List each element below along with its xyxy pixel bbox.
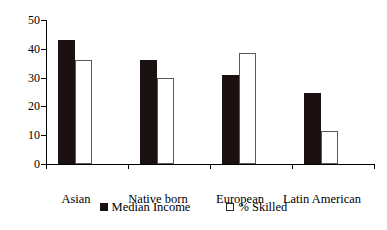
legend-entry-median-income: Median Income <box>100 200 191 214</box>
bar-percent-skilled-asian <box>75 60 92 164</box>
x-axis-tick-0 <box>46 164 47 169</box>
bar-group-latin-american <box>292 20 374 164</box>
y-axis-tick-label-40: 40 <box>2 43 40 55</box>
x-axis-tick-2 <box>210 164 211 169</box>
bar-percent-skilled-latin-american <box>321 131 338 164</box>
bar-chart-figure: 50 40 30 20 10 0 <box>0 0 387 230</box>
y-axis-tick-label-20: 20 <box>2 100 40 112</box>
y-axis-tick-label-50: 50 <box>2 14 40 26</box>
y-axis-tick-label-10: 10 <box>2 129 40 141</box>
bar-median-income-latin-american <box>304 93 321 164</box>
x-axis-tick-4 <box>374 164 375 169</box>
y-axis-tick-label-0: 0 <box>2 158 40 170</box>
bar-group-european <box>210 20 292 164</box>
bar-median-income-native-born <box>140 60 157 164</box>
open-square-icon <box>226 203 234 211</box>
legend-entry-percent-skilled: % Skilled <box>226 200 287 214</box>
filled-square-icon <box>100 203 108 211</box>
plot-area: 50 40 30 20 10 0 <box>46 20 375 164</box>
bar-group-asian <box>46 20 128 164</box>
bar-percent-skilled-native-born <box>157 78 174 164</box>
bar-percent-skilled-european <box>239 53 256 164</box>
bar-median-income-asian <box>58 40 75 164</box>
chart-legend: Median Income % Skilled <box>0 200 387 214</box>
bar-group-native-born <box>128 20 210 164</box>
legend-label-median-income: Median Income <box>112 200 191 214</box>
legend-label-percent-skilled: % Skilled <box>238 200 287 214</box>
y-axis-tick-label-30: 30 <box>2 72 40 84</box>
bar-median-income-european <box>222 75 239 164</box>
x-axis-tick-3 <box>292 164 293 169</box>
x-axis-tick-1 <box>128 164 129 169</box>
